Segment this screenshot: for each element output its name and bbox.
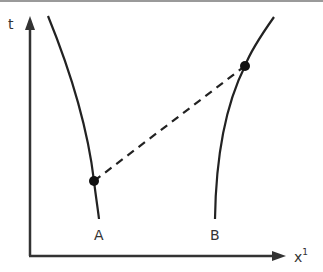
- y-axis-arrow-icon: [25, 16, 35, 30]
- curve-a: [48, 16, 99, 219]
- point-b: [240, 61, 250, 71]
- curve-b-label: B: [210, 227, 220, 243]
- curve-b: [215, 17, 274, 219]
- point-a: [89, 176, 99, 186]
- tie-line: [94, 66, 245, 181]
- phase-diagram: t x1 A B: [0, 0, 323, 272]
- y-axis-label: t: [8, 16, 14, 32]
- x-axis-label: x1: [294, 247, 308, 265]
- x-axis-arrow-icon: [272, 251, 286, 261]
- x-axis: [29, 251, 286, 261]
- x-axis-label-base: x: [294, 249, 302, 265]
- y-axis: [25, 16, 35, 256]
- x-axis-label-superscript: 1: [302, 247, 308, 257]
- curve-a-label: A: [94, 227, 104, 243]
